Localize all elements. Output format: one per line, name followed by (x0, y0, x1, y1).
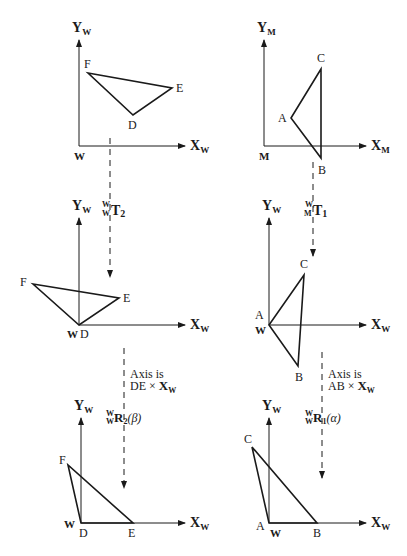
panel-top-right: YM XM M C A B (257, 20, 390, 177)
vertex-label-c: C (244, 432, 252, 446)
vertex-label-f: F (84, 57, 91, 71)
vertex-label-b: B (295, 370, 303, 384)
transform-label-t2: W W T2 (102, 195, 125, 219)
y-axis-label: YW (262, 398, 281, 415)
x-axis-label: XW (371, 317, 390, 334)
rotation-axis-right: AB × XW (328, 378, 375, 395)
triangle-abc (269, 275, 304, 366)
y-axis-label: YW (72, 198, 91, 215)
vertex-label-c: C (317, 51, 325, 65)
vertex-label-b: B (313, 526, 321, 540)
y-axis-label: YM (257, 20, 276, 37)
transform-label-r1: W W R1(α) (305, 404, 341, 427)
vertex-label-e: E (176, 81, 183, 95)
transformation-diagram: YW XW W F E D YM XM M C A B W W T2 W M T… (0, 0, 407, 556)
triangle-abc (291, 69, 321, 158)
vertex-label-d: D (79, 526, 88, 540)
vertex-label-e: E (123, 291, 130, 305)
origin-label: W (67, 328, 78, 340)
origin-label: W (270, 527, 281, 539)
vertex-label-d: D (80, 327, 89, 341)
x-axis-label: XW (371, 515, 390, 532)
origin-label: W (64, 518, 75, 530)
vertex-label-d: D (128, 118, 137, 132)
vertex-label-c: C (300, 257, 308, 271)
origin-label: W (255, 324, 266, 336)
x-axis-label: XW (190, 138, 209, 155)
vertex-label-f: F (59, 453, 66, 467)
vertex-label-a: A (256, 519, 265, 533)
vertex-label-e: E (128, 526, 135, 540)
triangle-def (88, 73, 172, 115)
triangle-def (68, 465, 133, 523)
origin-label: M (259, 150, 270, 162)
triangle-abc (252, 447, 317, 523)
vertex-label-a: A (278, 111, 287, 125)
rotation-axis-left: DE × XW (130, 378, 176, 395)
y-axis-label: YW (74, 398, 93, 415)
origin-label: W (74, 150, 85, 162)
x-axis-label: XW (190, 317, 209, 334)
panel-top-left: YW XW W F E D (72, 20, 209, 162)
x-axis-label: XW (190, 515, 209, 532)
transform-label-t1: W M T1 (304, 195, 327, 219)
vertex-label-a: A (255, 308, 264, 322)
triangle-def (33, 284, 119, 325)
vertex-label-f: F (20, 275, 27, 289)
y-axis-label: YW (72, 20, 91, 37)
vertex-label-b: B (318, 163, 326, 177)
panel-mid-left: YW XW W F E D (20, 198, 209, 341)
panel-mid-right: YW XW W C A B (255, 198, 390, 384)
y-axis-label: YW (262, 198, 281, 215)
x-axis-label: XM (371, 138, 390, 155)
